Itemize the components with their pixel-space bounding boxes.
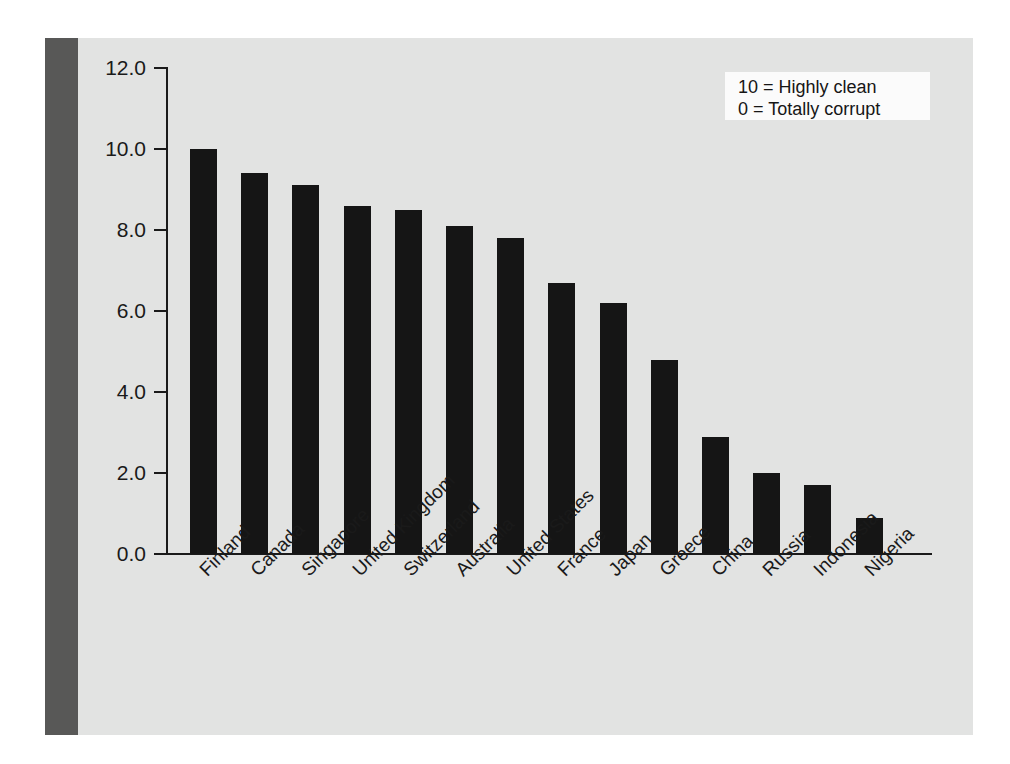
y-tick-label: 10.0	[88, 138, 146, 159]
y-tick-label: 2.0	[88, 462, 146, 483]
y-tick-label: 6.0	[88, 300, 146, 321]
bar	[241, 173, 268, 554]
y-tick-mark	[154, 472, 166, 474]
y-tick-mark	[154, 67, 166, 69]
y-tick-mark	[154, 229, 166, 231]
y-tick-label: 8.0	[88, 219, 146, 240]
chart-figure: 0.02.04.06.08.010.012.0 FinlandCanadaSin…	[0, 0, 1010, 764]
y-tick-label: 12.0	[88, 57, 146, 78]
y-axis-tick-labels: 0.02.04.06.08.010.012.0	[88, 0, 146, 764]
left-decorative-band	[45, 38, 78, 735]
legend-line-clean: 10 = Highly clean	[738, 77, 930, 99]
bar	[600, 303, 627, 554]
y-tick-mark	[154, 553, 166, 555]
legend-box: 10 = Highly clean 0 = Totally corrupt	[725, 72, 930, 120]
y-axis-line	[166, 67, 168, 555]
y-tick-label: 0.0	[88, 543, 146, 564]
bar	[753, 473, 780, 554]
y-tick-mark	[154, 391, 166, 393]
bar	[292, 185, 319, 554]
bar	[344, 206, 371, 554]
y-tick-label: 4.0	[88, 381, 146, 402]
bar	[651, 360, 678, 554]
legend-line-corrupt: 0 = Totally corrupt	[738, 99, 930, 121]
y-tick-mark	[154, 148, 166, 150]
bar	[497, 238, 524, 554]
y-tick-mark	[154, 310, 166, 312]
bar	[190, 149, 217, 554]
